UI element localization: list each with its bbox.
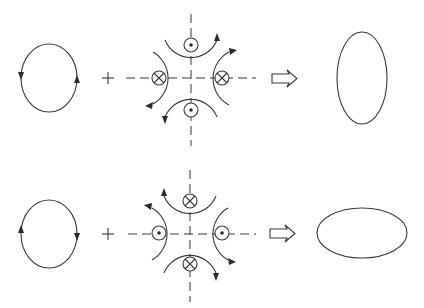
arc-arrow-icon <box>161 188 167 196</box>
implies-arrow-icon <box>270 225 295 242</box>
arc-arrow-icon <box>214 33 220 41</box>
arrow-up-icon <box>18 225 24 233</box>
current-out-icon <box>152 226 166 240</box>
plus-icon <box>102 228 114 240</box>
row-2 <box>18 170 407 302</box>
implies-arrow-icon <box>272 70 297 87</box>
quadrupole-diagram <box>0 0 424 308</box>
beam-in-circle <box>18 44 80 112</box>
current-in-icon <box>183 257 197 271</box>
arrow-down-icon <box>18 72 24 80</box>
current-out-icon <box>184 103 198 117</box>
arc-arrow-icon <box>144 203 152 210</box>
arc-arrow-icon <box>228 258 236 265</box>
quadrupole-magnet <box>126 14 256 146</box>
row-1 <box>18 14 387 146</box>
current-in-icon <box>152 71 166 85</box>
arc-arrow-icon <box>162 116 168 124</box>
current-in-icon <box>183 194 197 208</box>
current-out-icon <box>184 38 198 52</box>
quadrupole-magnet <box>128 170 256 302</box>
beam-in-circle <box>18 200 80 268</box>
arc-arrow-icon <box>213 273 219 281</box>
beam-out-vertical-ellipse <box>337 32 387 124</box>
arrow-down-icon <box>74 233 80 241</box>
plus-icon <box>102 72 114 84</box>
arc-arrow-icon <box>145 102 153 109</box>
arrow-up-icon <box>74 75 80 83</box>
current-in-icon <box>215 71 229 85</box>
beam-out-horizontal-ellipse <box>317 208 407 258</box>
arc-arrow-icon <box>229 48 237 55</box>
current-out-icon <box>215 226 229 240</box>
